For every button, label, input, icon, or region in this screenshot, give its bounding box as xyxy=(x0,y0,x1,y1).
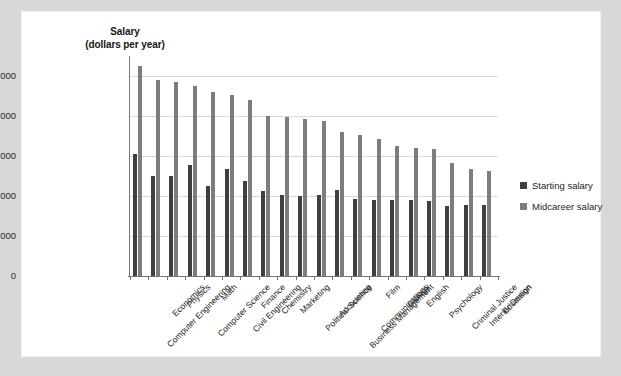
legend-label: Midcareer salary xyxy=(532,201,602,212)
bar-starting-salary[interactable] xyxy=(188,165,192,276)
x-tick-mark xyxy=(204,276,205,280)
bar-starting-salary[interactable] xyxy=(151,176,155,276)
chart-panel: Salary (dollars per year) $100,00080,000… xyxy=(22,12,600,356)
bar-starting-salary[interactable] xyxy=(372,200,376,276)
y-tick-label: 0 xyxy=(0,270,16,281)
bar-starting-salary[interactable] xyxy=(482,205,486,276)
y-axis-title-line1: Salary xyxy=(60,25,190,38)
bar-starting-salary[interactable] xyxy=(445,206,449,276)
bar-starting-salary[interactable] xyxy=(353,199,357,276)
bar-starting-salary[interactable] xyxy=(243,181,247,276)
bar-starting-salary[interactable] xyxy=(390,200,394,276)
x-tick-mark xyxy=(351,276,352,280)
x-tick-mark xyxy=(222,276,223,280)
x-tick-mark xyxy=(461,276,462,280)
gridline xyxy=(130,156,498,157)
y-tick-label: 20,000 xyxy=(0,230,16,241)
legend-item[interactable]: Midcareer salary xyxy=(520,201,602,212)
x-tick-mark xyxy=(369,276,370,280)
bar-midcareer-salary[interactable] xyxy=(377,139,381,276)
x-tick-mark xyxy=(314,276,315,280)
y-axis-title: Salary (dollars per year) xyxy=(60,25,190,51)
x-tick-mark xyxy=(296,276,297,280)
bar-starting-salary[interactable] xyxy=(225,169,229,276)
bar-starting-salary[interactable] xyxy=(298,196,302,276)
bar-midcareer-salary[interactable] xyxy=(414,148,418,276)
bar-midcareer-salary[interactable] xyxy=(138,66,142,276)
bar-starting-salary[interactable] xyxy=(206,186,210,276)
bar-midcareer-salary[interactable] xyxy=(340,132,344,276)
x-tick-label: Accounting xyxy=(336,282,373,319)
legend-item[interactable]: Starting salary xyxy=(520,180,602,191)
bar-midcareer-salary[interactable] xyxy=(211,92,215,276)
y-tick-label: $100,000 xyxy=(0,70,16,81)
x-tick-mark xyxy=(332,276,333,280)
legend-label: Starting salary xyxy=(532,180,593,191)
x-tick-mark xyxy=(185,276,186,280)
bar-midcareer-salary[interactable] xyxy=(285,117,289,276)
bar-starting-salary[interactable] xyxy=(261,191,265,276)
chart-legend: Starting salaryMidcareer salary xyxy=(520,180,602,222)
bar-midcareer-salary[interactable] xyxy=(487,171,491,276)
y-tick-label: 60,000 xyxy=(0,150,16,161)
x-tick-mark xyxy=(167,276,168,280)
y-axis-line xyxy=(129,56,130,277)
y-tick-label: 80,000 xyxy=(0,110,16,121)
y-tick-label: 40,000 xyxy=(0,190,16,201)
bar-midcareer-salary[interactable] xyxy=(266,116,270,276)
bar-starting-salary[interactable] xyxy=(464,205,468,276)
bar-midcareer-salary[interactable] xyxy=(469,169,473,276)
bar-starting-salary[interactable] xyxy=(317,195,321,276)
x-tick-mark xyxy=(388,276,389,280)
x-tick-label: Film xyxy=(383,282,401,300)
gridline xyxy=(130,236,498,237)
x-tick-mark xyxy=(130,276,131,280)
y-axis-title-line2: (dollars per year) xyxy=(60,38,190,51)
bar-midcareer-salary[interactable] xyxy=(450,163,454,276)
bar-midcareer-salary[interactable] xyxy=(432,149,436,276)
plot-area: $100,00080,00060,00040,00020,0000 Comput… xyxy=(130,56,498,276)
bar-starting-salary[interactable] xyxy=(409,200,413,276)
x-tick-mark xyxy=(424,276,425,280)
bar-starting-salary[interactable] xyxy=(427,201,431,276)
legend-swatch-icon xyxy=(520,182,527,189)
bar-midcareer-salary[interactable] xyxy=(303,119,307,276)
bar-midcareer-salary[interactable] xyxy=(156,80,160,276)
x-tick-mark xyxy=(406,276,407,280)
bar-midcareer-salary[interactable] xyxy=(322,121,326,276)
bar-midcareer-salary[interactable] xyxy=(358,135,362,276)
x-tick-mark xyxy=(148,276,149,280)
x-tick-mark xyxy=(498,276,499,280)
x-tick-mark xyxy=(480,276,481,280)
gridline xyxy=(130,196,498,197)
bar-midcareer-salary[interactable] xyxy=(230,95,234,276)
bar-starting-salary[interactable] xyxy=(133,154,137,276)
x-tick-mark xyxy=(277,276,278,280)
legend-swatch-icon xyxy=(520,203,527,210)
bar-midcareer-salary[interactable] xyxy=(193,86,197,276)
gridline xyxy=(130,76,498,77)
bar-midcareer-salary[interactable] xyxy=(174,82,178,276)
bar-midcareer-salary[interactable] xyxy=(248,100,252,276)
gridline xyxy=(130,116,498,117)
x-tick-mark xyxy=(240,276,241,280)
bar-starting-salary[interactable] xyxy=(280,195,284,276)
x-tick-mark xyxy=(259,276,260,280)
x-tick-mark xyxy=(443,276,444,280)
bar-starting-salary[interactable] xyxy=(335,190,339,276)
bar-starting-salary[interactable] xyxy=(169,176,173,276)
bar-midcareer-salary[interactable] xyxy=(395,146,399,276)
